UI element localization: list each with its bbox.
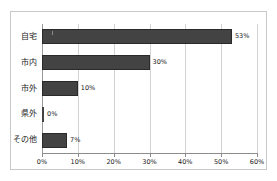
tick-mark-20% <box>114 153 115 157</box>
category-axis: 自宅市内市外県外その他 <box>11 24 42 153</box>
category-label-自宅: 自宅 <box>21 24 42 50</box>
bar-その他[interactable] <box>42 133 67 148</box>
bar-row: 7% <box>42 127 257 153</box>
chart-frame: 自宅市内市外県外その他 53%30%10%0%7% 0%10%20%30%40%… <box>10 11 267 170</box>
x-tick-label: 10% <box>71 158 85 166</box>
x-tick-label: 0% <box>37 158 47 166</box>
bar-row: 30% <box>42 50 257 76</box>
tick-mark-50% <box>221 153 222 157</box>
gridline-60% <box>257 24 258 153</box>
category-label-その他: その他 <box>13 127 42 153</box>
tick-mark-top-stub <box>52 31 53 35</box>
bar-value-label: 7% <box>67 133 80 148</box>
bar-市内[interactable] <box>42 55 150 70</box>
bar-市外[interactable] <box>42 81 78 96</box>
bar-value-label: 0% <box>44 107 57 122</box>
x-tick-label: 50% <box>214 158 228 166</box>
x-tick-label: 40% <box>178 158 192 166</box>
x-tick-label: 20% <box>106 158 120 166</box>
x-axis-tick-labels: 0%10%20%30%40%50%60% <box>42 158 257 170</box>
tick-mark-30% <box>150 153 151 157</box>
plot-area: 53%30%10%0%7% <box>42 24 257 153</box>
x-tick-label: 30% <box>142 158 156 166</box>
bar-value-label: 53% <box>232 29 249 44</box>
category-label-県外: 県外 <box>21 101 42 127</box>
bar-row: 0% <box>42 101 257 127</box>
bar-row: 10% <box>42 76 257 102</box>
tick-mark-0% <box>42 153 43 157</box>
bar-value-label: 30% <box>150 55 167 70</box>
tick-mark-60% <box>257 153 258 157</box>
tick-mark-10% <box>78 153 79 157</box>
category-label-市内: 市内 <box>21 50 42 76</box>
x-tick-label: 60% <box>250 158 264 166</box>
bar-自宅[interactable] <box>42 29 232 44</box>
tick-mark-40% <box>185 153 186 157</box>
bar-value-label: 10% <box>78 81 95 96</box>
bar-row: 53% <box>42 24 257 50</box>
category-label-市外: 市外 <box>21 76 42 102</box>
